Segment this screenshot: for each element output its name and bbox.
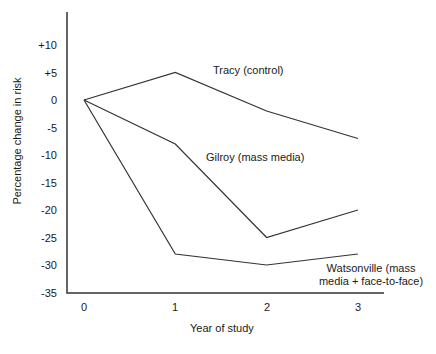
y-tick-label: +5 — [19, 67, 57, 80]
y-tick-label: +10 — [19, 39, 57, 52]
series-label-watsonville-mass-media-face-to-face: Watsonville (mass media + face-to-face) — [312, 262, 430, 288]
y-tick-label: -5 — [19, 122, 57, 135]
line-chart-figure: Percentage change in risk Year of study … — [0, 0, 436, 354]
y-tick-label: -10 — [19, 149, 57, 162]
y-tick-label: -25 — [19, 232, 57, 245]
series-line-2 — [84, 100, 358, 265]
series-label-tracy-control: Tracy (control) — [213, 64, 284, 77]
x-tick-label: 3 — [346, 301, 370, 314]
x-tick-label: 2 — [255, 301, 279, 314]
y-tick-label: -35 — [19, 287, 57, 300]
chart-canvas — [0, 0, 436, 354]
y-tick-label: -15 — [19, 177, 57, 190]
series-line-0 — [84, 73, 358, 139]
x-tick-label: 0 — [72, 301, 96, 314]
y-axis-title: Percentage change in risk — [10, 71, 24, 211]
y-tick-label: -30 — [19, 259, 57, 272]
x-axis-title: Year of study — [190, 322, 252, 335]
x-tick-label: 1 — [163, 301, 187, 314]
series-label-gilroy-mass-media: Gilroy (mass media) — [206, 151, 304, 164]
y-tick-label: -20 — [19, 204, 57, 217]
y-tick-label: 0 — [19, 94, 57, 107]
